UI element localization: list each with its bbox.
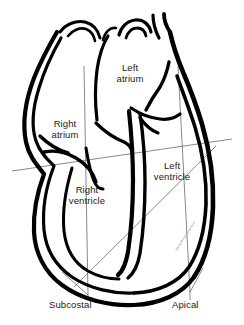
label-left-atrium: Left atrium bbox=[101, 62, 159, 84]
label-left-ventricle: Left ventricle bbox=[141, 160, 203, 182]
heart-illustration bbox=[0, 0, 244, 325]
av-septal-junction bbox=[96, 123, 131, 149]
label-subcostal-plane: Subcostal bbox=[49, 299, 121, 310]
left-atrium-floor bbox=[131, 108, 180, 119]
subcostal-ray-left bbox=[84, 66, 88, 295]
left-heart-border-outer bbox=[170, 32, 213, 277]
tricuspid-leaflet bbox=[86, 148, 103, 189]
aorta-outer-wall bbox=[164, 14, 170, 32]
label-right-ventricle: Right ventricle bbox=[57, 184, 117, 206]
heart-diagram-figure: Left atrium Right atrium Left ventricle … bbox=[0, 0, 244, 325]
interventricular-septum bbox=[118, 111, 133, 275]
label-right-atrium: Right atrium bbox=[38, 118, 92, 140]
pulmonary-artery-inner bbox=[126, 28, 146, 38]
superior-vena-cava-inner bbox=[68, 28, 95, 41]
aorta-inner-wall bbox=[153, 15, 159, 38]
label-apical-plane: Apical bbox=[172, 299, 224, 310]
